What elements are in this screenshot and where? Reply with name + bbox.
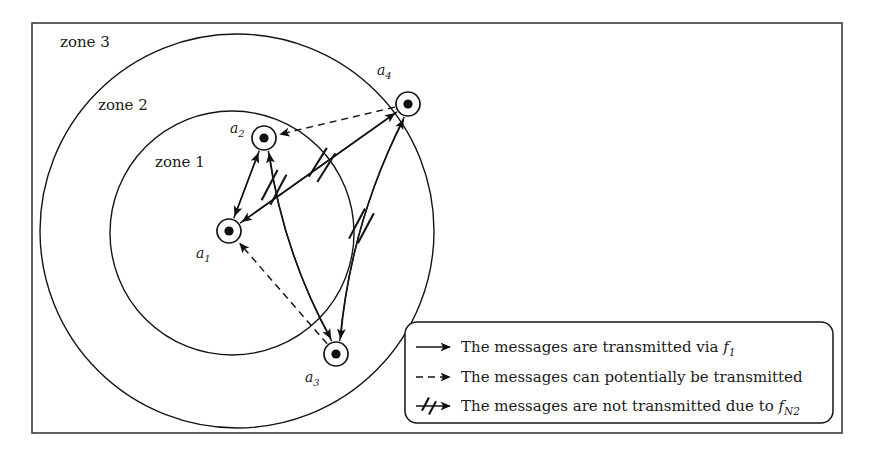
node-a1[interactable] bbox=[217, 219, 241, 243]
edge-a4-to-a3-blocked bbox=[341, 117, 405, 338]
node-core-a4 bbox=[403, 99, 412, 108]
figure-stage: zone 1zone 2zone 3 a1a2a3a4 The messages… bbox=[0, 0, 880, 456]
node-core-a3 bbox=[331, 349, 340, 358]
zone-diagram: zone 1zone 2zone 3 a1a2a3a4 The messages… bbox=[0, 0, 880, 456]
zone-label-zone1: zone 1 bbox=[155, 153, 205, 171]
node-label-a1: a1 bbox=[196, 245, 211, 264]
node-label-a4: a4 bbox=[377, 62, 392, 81]
node-core-a2 bbox=[259, 133, 268, 142]
edge-a4-to-a2-dashed bbox=[280, 107, 395, 134]
zone-label-zone3: zone 3 bbox=[60, 33, 110, 51]
node-a3[interactable] bbox=[324, 342, 348, 366]
legend-item-2: The messages can potentially be transmit… bbox=[416, 368, 803, 386]
zone-label-zone2: zone 2 bbox=[98, 96, 148, 114]
legend-label-1: The messages are transmitted via f1 bbox=[461, 338, 736, 358]
edge-a2-to-a3-blocked bbox=[268, 151, 331, 339]
zone-labels: zone 1zone 2zone 3 bbox=[60, 33, 205, 171]
legend: The messages are transmitted via f1The m… bbox=[405, 322, 833, 423]
edge-a2-to-a1-solid bbox=[235, 151, 259, 216]
edge-a3-to-a1-dashed bbox=[240, 243, 327, 343]
legend-label-3: The messages are not transmitted due to … bbox=[461, 397, 800, 417]
node-core-a1 bbox=[224, 226, 233, 235]
node-a2[interactable] bbox=[252, 126, 276, 150]
legend-label-2: The messages can potentially be transmit… bbox=[461, 368, 803, 386]
legend-item-3: The messages are not transmitted due to … bbox=[416, 397, 800, 417]
node-label-a2: a2 bbox=[230, 120, 245, 139]
edge-a3-to-a4-solid bbox=[340, 120, 404, 341]
legend-item-1: The messages are transmitted via f1 bbox=[416, 338, 736, 358]
node-label-a3: a3 bbox=[305, 369, 320, 388]
node-a4[interactable] bbox=[396, 92, 420, 116]
